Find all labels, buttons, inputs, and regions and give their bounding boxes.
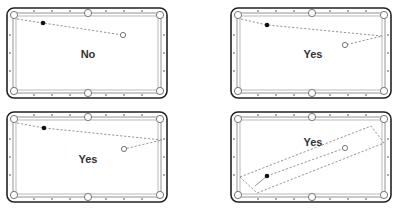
object-ball bbox=[42, 126, 47, 131]
object-ball bbox=[265, 174, 270, 179]
cue-ball bbox=[120, 32, 125, 37]
table-bottom-left: Yes bbox=[7, 112, 167, 202]
table-top-right: Yes bbox=[231, 8, 391, 98]
object-ball bbox=[265, 23, 270, 28]
verdict-label: Yes bbox=[79, 153, 98, 165]
table-bottom-right: Yes bbox=[231, 112, 391, 202]
cue-ball bbox=[342, 42, 347, 47]
pool-diagrams: No Yes Yes Yes bbox=[0, 0, 401, 213]
verdict-label: No bbox=[81, 48, 96, 60]
cue-ball bbox=[121, 146, 126, 151]
verdict-label: Yes bbox=[304, 48, 323, 60]
cue-ball bbox=[342, 145, 347, 150]
pool-table-outline bbox=[231, 112, 391, 202]
table-top-left: No bbox=[7, 8, 167, 98]
verdict-label: Yes bbox=[304, 136, 323, 148]
object-ball bbox=[41, 21, 46, 26]
